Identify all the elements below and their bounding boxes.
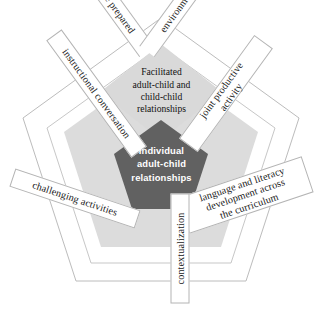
facilitated-line4: relationships	[133, 103, 191, 115]
individual-relationships-label: Individual adult-child relationships	[113, 140, 210, 188]
facilitated-relationships-label: Facilitated adult-child and child-child …	[104, 62, 219, 120]
individual-line3: relationships	[131, 171, 191, 184]
band-contextualization[interactable]: contextualization	[171, 194, 190, 304]
diagram-canvas: The prepared environment instructional c…	[0, 0, 322, 321]
facilitated-line1: Facilitated	[133, 66, 191, 78]
facilitated-line2: adult-child and	[133, 79, 191, 91]
individual-line2: adult-child	[131, 157, 191, 170]
facilitated-line3: child-child	[133, 91, 191, 103]
individual-line1: Individual	[131, 144, 191, 157]
